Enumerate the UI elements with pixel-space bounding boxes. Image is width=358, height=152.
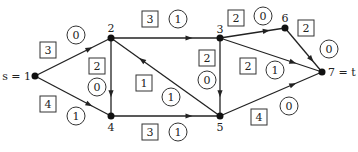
capacity-box: 4 — [251, 109, 267, 125]
node-label: s = 1 — [2, 70, 31, 83]
edge-3-6 — [220, 28, 285, 38]
capacity-box: 3 — [40, 42, 56, 58]
flow-circle: 0 — [320, 40, 338, 58]
svg-text:0: 0 — [260, 10, 267, 23]
capacity-box: 2 — [228, 10, 244, 26]
capacity-box: 4 — [40, 96, 56, 112]
svg-text:0: 0 — [326, 43, 333, 56]
flow-circle: 1 — [162, 88, 180, 106]
node-label: 4 — [108, 121, 115, 134]
capacity-box: 3 — [142, 11, 158, 27]
node-label: 5 — [217, 121, 224, 134]
svg-text:3: 3 — [147, 13, 154, 26]
node-5 — [217, 113, 224, 120]
node-label: 6 — [282, 12, 289, 25]
node-label: 2 — [108, 22, 115, 35]
flow-circle: 1 — [169, 123, 187, 141]
svg-text:1: 1 — [168, 91, 175, 104]
arrowhead-icon — [185, 35, 192, 40]
flow-circle: 1 — [266, 61, 284, 79]
capacity-box: 2 — [240, 58, 256, 74]
arrowhead-icon — [85, 101, 94, 109]
capacity-box: 2 — [199, 50, 215, 66]
node-2 — [108, 35, 115, 42]
svg-text:2: 2 — [94, 60, 101, 73]
arrowhead-icon — [289, 81, 297, 89]
flow-network-diagram: 3041203111312020212040 s = 1243567 = t — [0, 0, 358, 152]
svg-text:1: 1 — [175, 126, 182, 139]
svg-text:1: 1 — [141, 77, 148, 90]
svg-text:0: 0 — [73, 29, 80, 42]
capacity-box: 2 — [298, 20, 314, 36]
node-label: 3 — [217, 23, 224, 36]
capacity-box: 1 — [136, 75, 152, 91]
svg-text:0: 0 — [286, 100, 293, 113]
arrowhead-icon — [85, 45, 94, 53]
node-6 — [282, 25, 289, 32]
capacity-box: 2 — [89, 58, 105, 74]
svg-text:4: 4 — [45, 98, 52, 111]
capacity-box: 3 — [142, 124, 158, 140]
svg-text:0: 0 — [94, 81, 101, 94]
node-7 — [319, 69, 326, 76]
svg-text:2: 2 — [204, 52, 211, 65]
arrowhead-icon — [289, 59, 297, 66]
svg-text:3: 3 — [147, 126, 154, 139]
flow-circle: 0 — [198, 71, 216, 89]
svg-text:4: 4 — [256, 111, 263, 124]
node-1 — [32, 73, 39, 80]
svg-text:0: 0 — [204, 74, 211, 87]
flow-circle: 1 — [67, 107, 85, 125]
arrowhead-icon — [108, 90, 113, 97]
flow-circle: 0 — [280, 97, 298, 115]
svg-text:2: 2 — [303, 22, 310, 35]
svg-text:1: 1 — [175, 13, 182, 26]
svg-text:1: 1 — [272, 64, 279, 77]
flow-circle: 0 — [88, 78, 106, 96]
arrowhead-icon — [217, 90, 222, 97]
flow-circle: 0 — [67, 26, 85, 44]
arrowhead-icon — [185, 113, 192, 118]
svg-text:2: 2 — [245, 60, 252, 73]
svg-text:3: 3 — [45, 44, 52, 57]
flow-circle: 1 — [169, 10, 187, 28]
flow-circle: 0 — [254, 7, 272, 25]
node-4 — [108, 113, 115, 120]
svg-text:1: 1 — [73, 110, 80, 123]
svg-text:2: 2 — [233, 12, 240, 25]
node-label: 7 = t — [328, 66, 356, 79]
